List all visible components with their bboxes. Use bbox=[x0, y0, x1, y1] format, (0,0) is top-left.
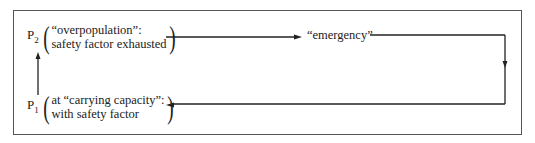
p1-line2: with safety factor bbox=[51, 107, 164, 121]
node-emergency: “emergency” bbox=[307, 28, 373, 43]
p1-line1: at “carrying capacity”: bbox=[51, 93, 164, 107]
p2-label: P2 bbox=[27, 28, 39, 47]
left-paren: ( bbox=[43, 92, 49, 122]
p2-line2: safety factor exhausted bbox=[51, 37, 166, 51]
p2-line1: “overpopulation”: bbox=[51, 23, 166, 37]
left-paren: ( bbox=[43, 22, 49, 52]
node-p1: P1 ( at “carrying capacity”: with safety… bbox=[27, 92, 175, 122]
node-p2: P2 ( “overpopulation”: safety factor exh… bbox=[27, 22, 177, 52]
right-paren: ) bbox=[167, 92, 173, 122]
right-paren: ) bbox=[169, 22, 175, 52]
p1-label: P1 bbox=[27, 98, 39, 117]
